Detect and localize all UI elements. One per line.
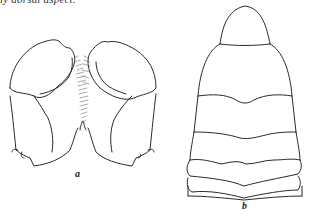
panel-label-a: a [75,168,80,179]
panel-b-drawing [187,6,302,200]
panel-label-b: b [242,200,247,211]
figure-illustration [0,0,318,216]
panel-a-drawing [10,40,156,166]
